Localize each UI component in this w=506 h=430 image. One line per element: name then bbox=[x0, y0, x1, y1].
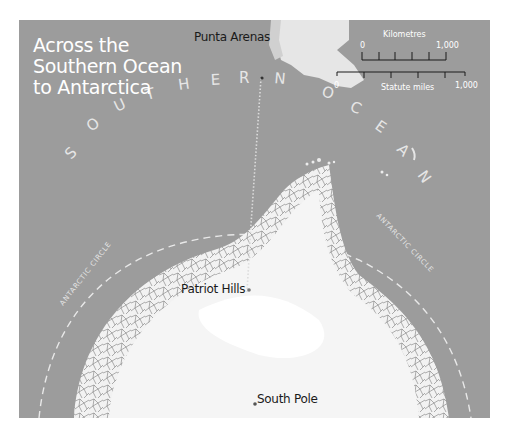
svg-text:A: A bbox=[393, 140, 414, 161]
svg-text:R: R bbox=[239, 69, 249, 87]
scale-km-end: 1,000 bbox=[436, 41, 459, 50]
svg-text:N: N bbox=[274, 69, 287, 88]
antarctic-circle-label-left: ANTARCTIC CIRCLE bbox=[58, 240, 113, 307]
title-line-3: to Antarctica bbox=[33, 77, 182, 98]
antarctica-map: S O U T H E R N O C E A N ANTARCTIC CIRC… bbox=[19, 20, 490, 418]
svg-text:N: N bbox=[414, 167, 435, 187]
scale-mi-start: 0 bbox=[334, 81, 339, 90]
punta-arenas-marker bbox=[260, 76, 263, 79]
antarctic-circle-label-right: ANTARCTIC CIRCLE bbox=[375, 212, 436, 274]
scale-km-start: 0 bbox=[360, 41, 365, 50]
svg-text:C: C bbox=[347, 97, 364, 118]
svg-text:S: S bbox=[61, 143, 80, 162]
scale-mi-end: 1,000 bbox=[455, 81, 478, 90]
title-line-2: Southern Ocean bbox=[33, 56, 182, 77]
label-south-pole: South Pole bbox=[257, 392, 318, 406]
svg-text:O: O bbox=[83, 114, 103, 136]
label-patriot-hills: Patriot Hills bbox=[181, 282, 245, 296]
svg-text:E: E bbox=[210, 71, 220, 89]
label-punta-arenas: Punta Arenas bbox=[194, 30, 270, 44]
scale-mi-label: Statute miles bbox=[381, 83, 434, 92]
map-title: Across the Southern Ocean to Antarctica bbox=[33, 35, 182, 98]
svg-text:E: E bbox=[372, 117, 390, 137]
scale-km-label: Kilometres bbox=[383, 30, 426, 39]
title-line-1: Across the bbox=[33, 35, 182, 56]
patriot-hills-marker bbox=[247, 288, 251, 292]
